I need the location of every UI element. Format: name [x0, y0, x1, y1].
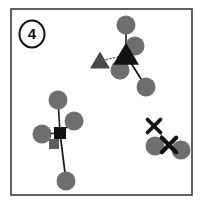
detection-circle [49, 91, 68, 110]
detection-circle [137, 78, 156, 97]
detection-circle [33, 125, 52, 144]
square-marker [49, 139, 59, 149]
figure-root: 4 [0, 0, 201, 204]
detection-circle [57, 172, 76, 191]
detection-circle [117, 16, 136, 35]
panel-label: 4 [20, 21, 45, 48]
panel-label-text: 4 [28, 25, 37, 42]
scatter-plot-canvas: 4 [0, 0, 201, 204]
square-marker [54, 127, 66, 139]
detection-circle [65, 112, 84, 131]
